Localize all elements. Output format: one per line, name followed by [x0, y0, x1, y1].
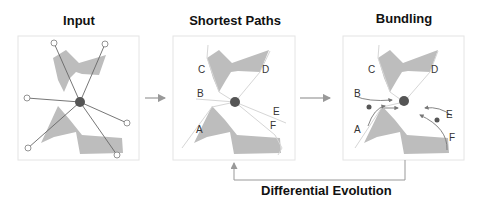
label-C: C — [368, 64, 375, 75]
bundling-panel: A B C D E F — [343, 36, 464, 160]
label-A: A — [196, 124, 203, 135]
label-A: A — [354, 124, 361, 135]
bundle-point-left — [367, 105, 372, 110]
label-B: B — [354, 88, 361, 99]
shortest-paths-panel: A B C D E F — [173, 36, 295, 160]
label-C: C — [198, 64, 205, 75]
label-F: F — [449, 132, 455, 143]
input-center-node — [75, 97, 85, 107]
feedback-loop-arrow — [234, 160, 405, 180]
label-D: D — [262, 64, 269, 75]
label-B: B — [197, 88, 204, 99]
paths-center-node — [230, 97, 240, 107]
diagram-canvas: A B C D E F A B C D E F — [0, 0, 481, 206]
input-panel — [18, 36, 139, 160]
label-F: F — [270, 120, 276, 131]
label-E: E — [446, 109, 453, 120]
bundle-point-right — [435, 118, 440, 123]
bundling-center-node — [399, 96, 409, 106]
label-D: D — [431, 64, 438, 75]
label-E: E — [273, 106, 280, 117]
